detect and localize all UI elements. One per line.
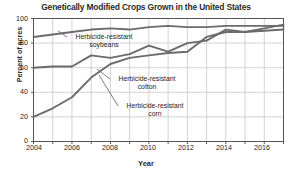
annotation-corn-line2: corn [121, 110, 189, 118]
annotation-soybeans: Herbicide-resistant soybeans [70, 33, 138, 50]
chart-page: Genetically Modified Crops Grown in the … [0, 0, 292, 172]
annotation-corn: Herbicide-resistant corn [121, 102, 189, 119]
annotation-cotton: Herbicide-resistant cotton [113, 75, 181, 92]
annotation-soybeans-line2: soybeans [70, 41, 138, 49]
annotation-cotton-line2: cotton [113, 83, 181, 91]
